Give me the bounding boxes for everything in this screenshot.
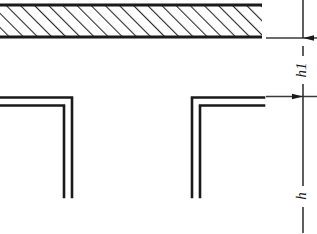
right-angle-profile: [192, 98, 264, 198]
hatched-slab: [0, 4, 262, 38]
drawing-svg: h1 h h: [0, 0, 317, 233]
technical-drawing-canvas: h1 h h: [0, 0, 317, 233]
left-profile-outer-edge: [0, 98, 72, 198]
left-angle-profile: [0, 98, 72, 198]
dimension-h1: h1: [293, 0, 309, 96]
left-profile-inner-edge: [0, 106, 64, 198]
dimension-h-label-text: h: [293, 192, 309, 200]
slab-hatch-fill: [0, 4, 262, 38]
dimension-h1-label: h1: [293, 63, 309, 78]
right-profile-outer-edge: [192, 98, 264, 198]
dimension-h: h h: [293, 97, 311, 234]
right-profile-inner-edge: [200, 106, 264, 198]
